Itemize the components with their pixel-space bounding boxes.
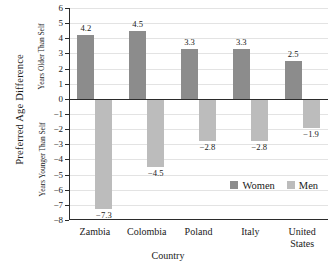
bar-value-label-women: 4.5 bbox=[132, 20, 143, 29]
y-tick-label: −3 bbox=[53, 140, 63, 149]
x-category-label: Colombia bbox=[127, 226, 166, 238]
bar-value-label-women: 3.3 bbox=[236, 38, 247, 47]
y-axis-upper-label: Years Older Than Self bbox=[37, 12, 46, 102]
legend-entry[interactable]: Women bbox=[230, 180, 274, 191]
legend-swatch-women bbox=[230, 181, 238, 189]
legend-label: Women bbox=[242, 180, 274, 191]
y-axis-line bbox=[69, 8, 70, 220]
y-tick-label: −2 bbox=[53, 125, 63, 134]
gridline bbox=[69, 38, 328, 39]
bar-women bbox=[285, 61, 302, 99]
y-tick-label: −5 bbox=[53, 170, 63, 179]
bar-women bbox=[129, 31, 146, 99]
y-axis-title: Preferred Age Difference bbox=[14, 30, 25, 190]
bar-value-label-men: −2.8 bbox=[200, 143, 216, 152]
y-axis-lower-label: Years Younger Than Self bbox=[38, 112, 47, 208]
x-category-label: Zambia bbox=[80, 226, 111, 238]
y-tick bbox=[65, 220, 69, 221]
y-tick-label: 2 bbox=[59, 64, 64, 73]
gridline bbox=[69, 8, 328, 9]
y-tick-label: −1 bbox=[53, 110, 63, 119]
chart-container: Preferred Age Difference Years Older Tha… bbox=[0, 0, 336, 269]
y-tick-label: −8 bbox=[53, 216, 63, 225]
y-tick-label: −7 bbox=[53, 200, 63, 209]
x-category-label: Poland bbox=[185, 226, 213, 238]
legend-label: Men bbox=[299, 180, 318, 191]
bar-men bbox=[303, 99, 320, 128]
bar-women bbox=[77, 35, 94, 99]
bar-men bbox=[147, 99, 164, 167]
y-tick-label: 1 bbox=[59, 79, 64, 88]
bar-value-label-men: −1.9 bbox=[303, 130, 319, 139]
bar-women bbox=[181, 49, 198, 99]
bar-women bbox=[233, 49, 250, 99]
chart-legend: WomenMen bbox=[230, 180, 325, 191]
legend-entry[interactable]: Men bbox=[287, 180, 318, 191]
bar-value-label-men: −4.5 bbox=[148, 169, 164, 178]
zero-baseline bbox=[69, 99, 328, 101]
y-tick-label: 6 bbox=[59, 4, 64, 13]
y-tick-label: 4 bbox=[59, 34, 64, 43]
x-category-label: United States bbox=[288, 226, 315, 249]
y-tick-label: 5 bbox=[59, 19, 64, 28]
gridline bbox=[69, 23, 328, 24]
legend-swatch-men bbox=[287, 181, 295, 189]
y-tick-label: −6 bbox=[53, 185, 63, 194]
x-axis-title: Country bbox=[0, 250, 336, 261]
x-category-label: Italy bbox=[241, 226, 259, 238]
bar-men bbox=[95, 99, 112, 210]
plot-area: 6543210−1−2−3−4−5−6−7−8 4.2−7.34.5−4.53.… bbox=[69, 8, 328, 220]
y-tick-label: −4 bbox=[53, 155, 63, 164]
y-tick-label: 0 bbox=[59, 94, 64, 103]
y-tick-label: 3 bbox=[59, 49, 64, 58]
bar-value-label-men: −7.3 bbox=[96, 211, 112, 220]
bar-value-label-men: −2.8 bbox=[252, 143, 268, 152]
bar-value-label-women: 3.3 bbox=[184, 38, 195, 47]
bar-men bbox=[199, 99, 216, 141]
bar-value-label-women: 4.2 bbox=[81, 24, 92, 33]
bar-value-label-women: 2.5 bbox=[288, 50, 299, 59]
bar-men bbox=[251, 99, 268, 141]
